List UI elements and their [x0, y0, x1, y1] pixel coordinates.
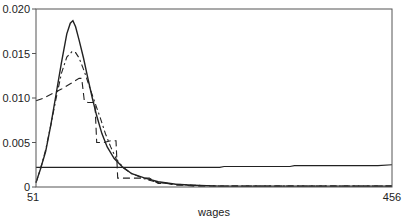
x-axis: 51 456 wages — [27, 191, 401, 218]
x-tick-label-min: 51 — [27, 191, 39, 203]
series-flat-density — [36, 165, 392, 168]
density-chart: 0 0.005 0.010 0.015 0.020 51 456 wages — [0, 0, 403, 219]
y-tick-label-1: 0.005 — [2, 137, 30, 149]
plot-series — [36, 21, 392, 187]
series-dashed-density — [36, 78, 392, 186]
y-tick-label-2: 0.010 — [2, 92, 30, 104]
x-tick-label-max: 456 — [383, 191, 401, 203]
y-axis: 0 0.005 0.010 0.015 0.020 — [2, 3, 36, 193]
x-axis-label: wages — [197, 206, 230, 218]
y-tick-label-4: 0.020 — [2, 3, 30, 15]
series-solid-density — [36, 21, 392, 187]
y-tick-label-3: 0.015 — [2, 48, 30, 60]
plot-frame — [36, 9, 392, 187]
